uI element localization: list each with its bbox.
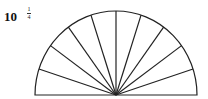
- sector-divider: [91, 15, 116, 95]
- sector-divider: [116, 69, 193, 95]
- semicircle-diagram: [0, 0, 208, 99]
- sector-divider: [116, 15, 141, 95]
- sector-divider: [50, 46, 116, 95]
- sector-divider: [68, 27, 116, 95]
- sector-divider: [116, 46, 182, 95]
- sector-divider: [116, 27, 164, 95]
- sector-divider: [39, 69, 116, 95]
